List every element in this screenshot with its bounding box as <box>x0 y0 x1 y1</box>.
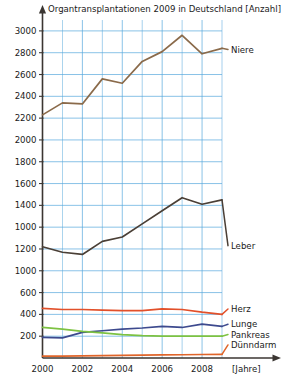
chart-canvas: 3000280026002400220020001800160014001000… <box>0 0 284 380</box>
y-axis-tick-label: 1200 <box>15 244 37 254</box>
series-label-leader <box>222 309 228 314</box>
y-axis-tick-label: 2600 <box>15 70 37 80</box>
chart-title-layer: Organtransplantationen 2009 in Deutschla… <box>48 4 281 14</box>
series-label-dnndarm: Dünndarm <box>231 340 276 350</box>
series-label-pankreas: Pankreas <box>231 330 270 340</box>
x-axis-tick-label: 2006 <box>151 364 173 374</box>
y-axis-tick-label: 400 <box>20 309 36 319</box>
x-axis-tick-label: 2002 <box>71 364 93 374</box>
data-series-layer <box>43 35 223 356</box>
series-label-lunge: Lunge <box>231 319 257 329</box>
data-series-line-niere <box>43 35 223 115</box>
y-axis-tick-label: 2000 <box>15 135 37 145</box>
x-axis-tick-labels: 20002002200420062008[Jahre] <box>32 364 261 374</box>
x-axis-unit-label: [Jahre] <box>232 364 261 374</box>
y-axis-tick-label: 2200 <box>15 113 37 123</box>
y-axis-tick-label: 1800 <box>15 157 37 167</box>
y-axis-tick-labels: 3000280026002400220020001800160014001000… <box>15 26 44 341</box>
y-axis-tick-label: 1400 <box>15 200 37 210</box>
data-series-line-herz <box>43 308 223 314</box>
series-label-leader <box>222 200 228 246</box>
grid-layer <box>43 20 223 358</box>
y-axis-tick-label: 1000 <box>15 266 37 276</box>
y-axis-tick-label: 1000 <box>15 222 37 232</box>
series-label-leader <box>222 324 228 326</box>
series-labels-layer: NiereLeberHerzLungePankreasDünndarm <box>222 45 276 355</box>
series-label-leader <box>222 345 228 354</box>
series-label-leader <box>222 48 228 49</box>
series-label-leader <box>222 335 228 337</box>
data-series-line-leber <box>43 198 223 255</box>
x-axis-arrow-icon <box>273 354 282 361</box>
series-label-herz: Herz <box>231 304 251 314</box>
y-axis-tick-label: 3000 <box>15 26 37 36</box>
y-axis-tick-label: 200 <box>20 331 36 341</box>
y-axis-tick-label: 2400 <box>15 91 37 101</box>
data-series-line-dnndarm <box>43 354 223 356</box>
y-axis-tick-label: 1600 <box>15 179 37 189</box>
x-axis-tick-label: 2000 <box>32 364 54 374</box>
organ-transplant-line-chart: 3000280026002400220020001800160014001000… <box>0 0 284 380</box>
y-axis-arrow-icon <box>39 5 46 14</box>
y-axis-tick-label: 600 <box>20 288 36 298</box>
y-axis-tick-label: 2800 <box>15 48 37 58</box>
x-axis-tick-label: 2008 <box>191 364 213 374</box>
chart-title: Organtransplantationen 2009 in Deutschla… <box>48 4 281 14</box>
series-label-leber: Leber <box>231 241 256 251</box>
series-label-niere: Niere <box>231 45 254 55</box>
x-axis-tick-label: 2004 <box>111 364 133 374</box>
